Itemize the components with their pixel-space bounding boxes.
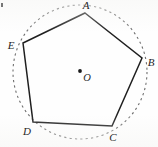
vertex-label-d: D	[23, 126, 31, 137]
vertex-label-c: C	[109, 132, 116, 143]
geometry-figure: A B C D E O	[0, 0, 158, 147]
center-label-o: O	[83, 73, 91, 84]
vertex-label-a: A	[83, 0, 90, 11]
center-point-dot	[78, 69, 82, 73]
pentagon-shape	[23, 13, 142, 126]
vertex-label-b: B	[148, 57, 155, 68]
vertex-label-e: E	[8, 40, 15, 51]
scan-speck-artifact	[1, 3, 3, 7]
